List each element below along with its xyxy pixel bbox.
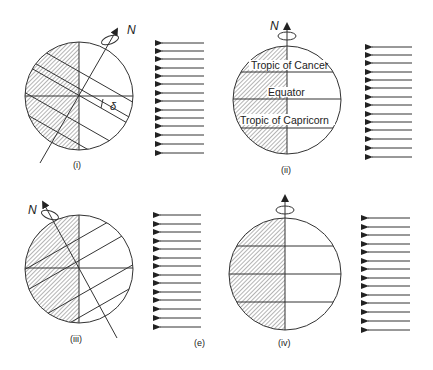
figure-label: (e) [194,338,205,348]
earth-seasons-diagram: N δ (i) N Tropic of Cancer Equator Tropi… [0,0,433,370]
panel-ii: N Tropic of Cancer Equator Tropic of Cap… [230,19,345,175]
sun-rays-iv [368,218,410,330]
night-side-shading [20,213,79,326]
panel-i: N δ (i) [10,23,150,185]
rotation-arrow-icon [100,33,120,47]
north-pole-label: N [127,23,136,37]
equator-label: Equator [268,86,305,98]
north-pole-label: N [28,203,37,217]
declination-angle-arrow [101,99,103,108]
sun-rays-i [162,43,204,153]
panel-label: (iii) [70,334,82,344]
panel-label: (iv) [278,338,291,348]
tropic-of-cancer-label: Tropic of Cancer [251,59,329,71]
night-side-shading [20,40,79,155]
declination-label: δ [110,100,117,112]
panel-label: (ii) [281,165,291,175]
sun-rays-ii [372,47,412,157]
tropic-of-capricorn-label: Tropic of Capricorn [240,114,329,126]
panel-label: (i) [73,160,81,170]
north-pole-label: N [270,19,279,33]
sun-rays-iii [160,215,201,327]
panel-iv: (iv) [228,198,345,348]
panel-iii: N (iii) [10,198,150,357]
